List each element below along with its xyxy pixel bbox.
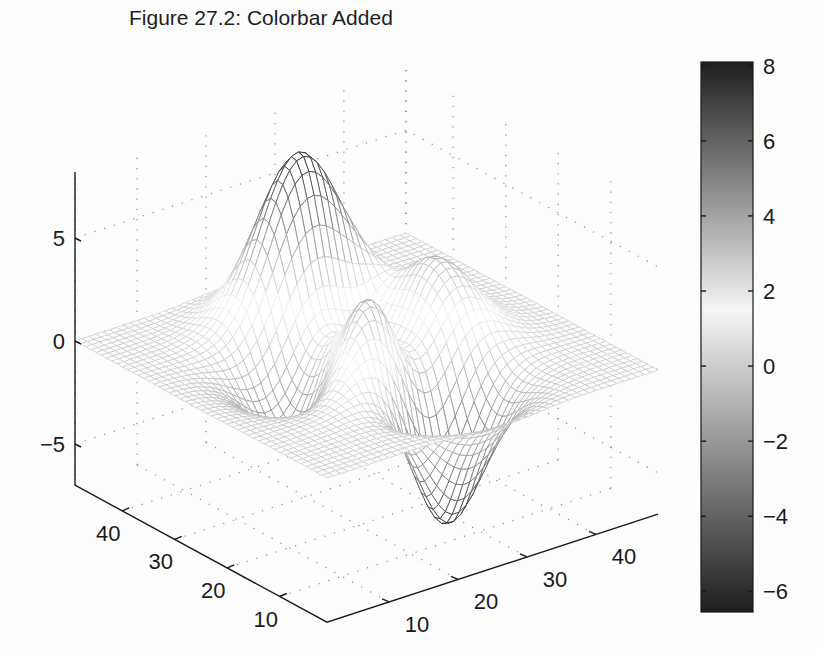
figure-canvas: −5051020304010203040 86420−2−4−6 [0, 0, 821, 653]
colorbar-gradient [701, 62, 753, 612]
y-tick-label: 20 [201, 578, 225, 603]
colorbar-tick-label: 8 [763, 54, 775, 79]
z-tick-label: −5 [40, 432, 65, 457]
x-tick-label: 10 [405, 612, 429, 637]
colorbar-tick-label: −2 [763, 429, 788, 454]
x-tick-label: 20 [474, 589, 498, 614]
z-tick-label: 5 [53, 226, 65, 251]
y-tick-label: 30 [149, 549, 173, 574]
colorbar-tick-label: 4 [763, 204, 775, 229]
colorbar-tick-label: 6 [763, 129, 775, 154]
colorbar-tick-label: 2 [763, 279, 775, 304]
surface-mesh [75, 152, 658, 523]
colorbar: 86420−2−4−6 [701, 54, 788, 612]
x-tick-label: 40 [612, 544, 636, 569]
y-tick-label: 40 [96, 521, 120, 546]
colorbar-tick-label: −6 [763, 579, 788, 604]
colorbar-tick-label: −4 [763, 504, 788, 529]
y-tick-label: 10 [254, 607, 278, 632]
x-tick-label: 30 [543, 567, 567, 592]
colorbar-tick-label: 0 [763, 354, 775, 379]
z-tick-label: 0 [53, 329, 65, 354]
